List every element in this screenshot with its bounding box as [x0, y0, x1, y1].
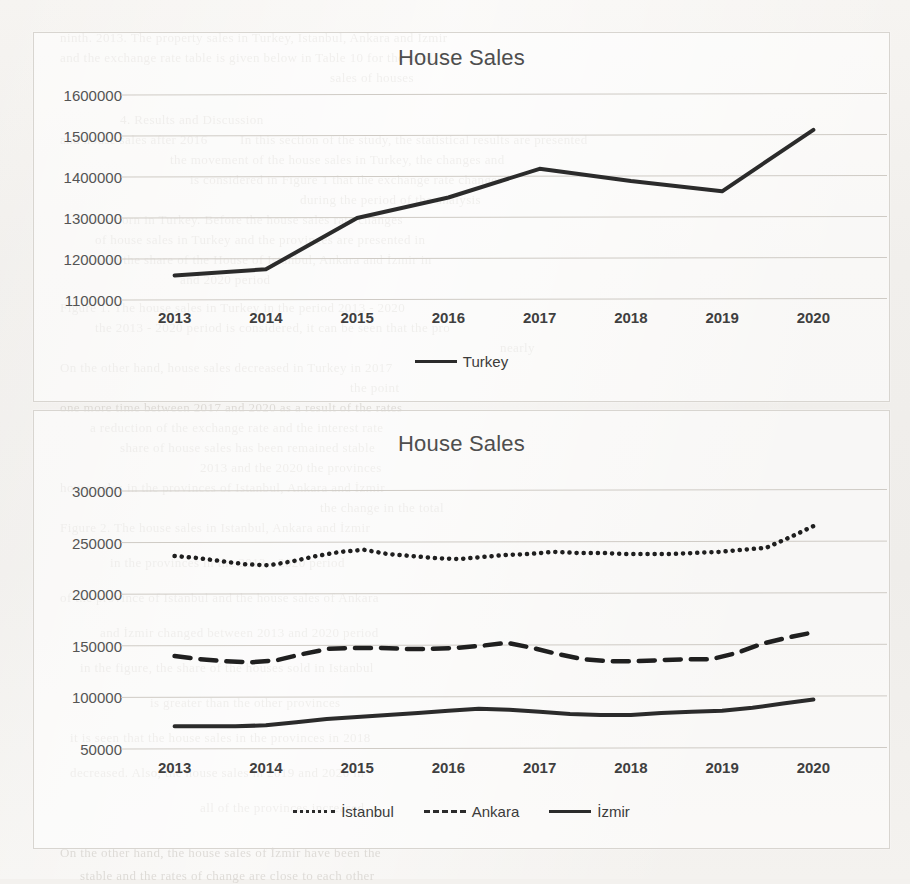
x-tick-label: 2016: [432, 759, 465, 776]
legend-swatch-icon: [549, 810, 591, 813]
x-tick-label: 2019: [705, 759, 738, 776]
y-tick-label: 1500000: [64, 128, 122, 145]
legend-swatch-icon: [293, 810, 335, 813]
x-tick-label: 2018: [614, 759, 647, 776]
chart-1-plot-area: [129, 95, 859, 300]
series-line: [175, 130, 814, 276]
y-tick-label: 1100000: [65, 292, 122, 309]
x-tick-label: 2019: [705, 309, 738, 326]
x-tick-label: 2017: [523, 759, 556, 776]
gridline: [121, 299, 887, 301]
x-tick-label: 2014: [249, 759, 282, 776]
chart-2-legend: İstanbulAnkaraİzmir: [34, 803, 889, 820]
gridline: [121, 94, 887, 96]
x-tick-label: 2017: [523, 309, 556, 326]
bleed-text: stable and the rates of change are close…: [80, 868, 374, 884]
x-tick-label: 2018: [614, 309, 647, 326]
legend-label: İstanbul: [341, 803, 394, 820]
series-line: [175, 632, 814, 662]
y-tick-label: 1400000: [64, 169, 122, 186]
x-tick-label: 2013: [158, 309, 191, 326]
gridline: [121, 135, 887, 137]
chart-2-cities: House Sales 5000010000015000020000025000…: [33, 410, 890, 849]
chart-2-svg: [129, 491, 859, 749]
legend-item[interactable]: Ankara: [424, 803, 520, 820]
gridline: [121, 644, 887, 646]
gridline: [121, 176, 887, 178]
legend-item[interactable]: İzmir: [549, 803, 630, 820]
x-tick-label: 2014: [249, 309, 282, 326]
chart-1-svg: [129, 95, 859, 300]
y-tick-label: 200000: [72, 586, 122, 603]
chart-2-x-axis-labels: 20132014201520162017201820192020: [129, 759, 859, 781]
legend-label: Turkey: [463, 353, 508, 370]
chart-1-turkey: House Sales 1100000120000013000001400000…: [33, 32, 890, 402]
legend-label: İzmir: [597, 803, 630, 820]
gridline: [121, 258, 887, 260]
x-tick-label: 2020: [797, 759, 830, 776]
legend-item[interactable]: Turkey: [415, 353, 508, 370]
x-tick-label: 2015: [340, 309, 373, 326]
y-tick-label: 1300000: [64, 210, 122, 227]
y-tick-label: 300000: [72, 483, 122, 500]
gridline: [121, 490, 887, 492]
x-tick-label: 2013: [158, 759, 191, 776]
y-tick-label: 1200000: [64, 251, 122, 268]
x-tick-label: 2015: [340, 759, 373, 776]
y-tick-label: 50000: [80, 741, 122, 758]
y-tick-label: 250000: [72, 534, 122, 551]
gridline: [121, 748, 887, 750]
legend-label: Ankara: [472, 803, 520, 820]
gridline: [121, 696, 887, 698]
series-line: [175, 700, 814, 727]
chart-1-legend: Turkey: [34, 353, 889, 370]
legend-item[interactable]: İstanbul: [293, 803, 394, 820]
chart-1-title: House Sales: [34, 45, 889, 71]
legend-swatch-icon: [415, 360, 457, 363]
gridline: [121, 541, 887, 543]
chart-2-title: House Sales: [34, 431, 889, 457]
x-tick-label: 2020: [797, 309, 830, 326]
chart-2-y-axis-labels: 50000100000150000200000250000300000: [34, 491, 122, 749]
y-tick-label: 150000: [72, 637, 122, 654]
x-tick-label: 2016: [432, 309, 465, 326]
series-line: [175, 526, 814, 565]
chart-2-plot-area: [129, 491, 859, 749]
y-tick-label: 1600000: [64, 87, 122, 104]
chart-1-x-axis-labels: 20132014201520162017201820192020: [129, 309, 859, 331]
legend-swatch-icon: [424, 810, 466, 813]
gridline: [121, 593, 887, 595]
y-tick-label: 100000: [72, 689, 122, 706]
gridline: [121, 217, 887, 219]
chart-1-y-axis-labels: 1100000120000013000001400000150000016000…: [34, 95, 122, 300]
